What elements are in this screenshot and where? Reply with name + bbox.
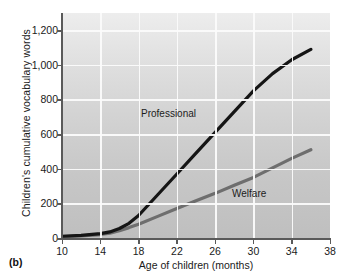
x-tick-mark-34 — [291, 239, 293, 244]
y-tick-label-200: 200 — [0, 197, 58, 209]
series-label-welfare: Welfare — [232, 188, 266, 199]
gridline-v-18 — [139, 13, 141, 238]
y-axis-line — [61, 13, 63, 239]
y-tick-label-1000: 1,000 — [0, 59, 58, 71]
x-axis-title: Age of children (months) — [62, 259, 330, 271]
x-tick-label-26: 26 — [200, 245, 230, 257]
series-label-professional: Professional — [141, 108, 196, 119]
gridline-v-22 — [177, 13, 179, 238]
y-tick-label-400: 400 — [0, 163, 58, 175]
figure-panel-b: Children's cumulative vocabulary words 0… — [0, 0, 349, 277]
x-tick-mark-10 — [62, 239, 64, 244]
panel-letter: (b) — [9, 256, 22, 268]
gridline-h-800 — [62, 99, 330, 101]
x-tick-mark-38 — [330, 239, 332, 244]
plot-area — [62, 13, 330, 238]
gridline-h-200 — [62, 203, 330, 205]
gridline-h-1200 — [62, 30, 330, 32]
gridline-v-34 — [292, 13, 294, 238]
x-tick-mark-18 — [138, 239, 140, 244]
y-axis-tick-labels: 0 200 400 600 800 1,000 1,200 — [0, 0, 58, 277]
x-tick-label-30: 30 — [238, 245, 268, 257]
gridline-v-30 — [253, 13, 255, 238]
x-tick-label-22: 22 — [162, 245, 192, 257]
x-tick-mark-14 — [100, 239, 102, 244]
y-tick-label-800: 800 — [0, 93, 58, 105]
x-tick-mark-22 — [176, 239, 178, 244]
gridline-v-14 — [100, 13, 102, 238]
x-tick-label-34: 34 — [277, 245, 307, 257]
y-tick-label-600: 600 — [0, 128, 58, 140]
x-tick-label-14: 14 — [85, 245, 115, 257]
x-tick-label-10: 10 — [47, 245, 77, 257]
gridline-h-600 — [62, 134, 330, 136]
gridline-h-1000 — [62, 65, 330, 67]
y-tick-label-0: 0 — [0, 232, 58, 244]
gridline-h-400 — [62, 169, 330, 171]
x-tick-label-18: 18 — [124, 245, 154, 257]
x-tick-label-38: 38 — [315, 245, 345, 257]
gridline-v-26 — [215, 13, 217, 238]
y-tick-label-1200: 1,200 — [0, 24, 58, 36]
x-tick-mark-30 — [253, 239, 255, 244]
x-tick-mark-26 — [215, 239, 217, 244]
